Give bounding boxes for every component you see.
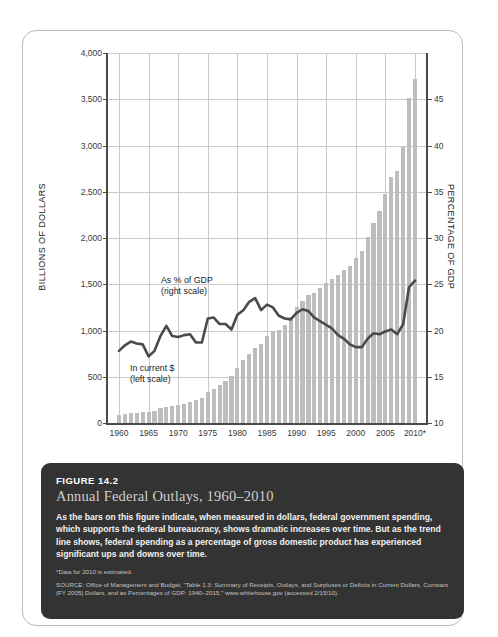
y-tick-label-right: 35 — [434, 187, 443, 197]
x-tick-label: 1980 — [228, 428, 247, 438]
y-tick-label-right: 25 — [434, 279, 443, 289]
x-tick-label: 1995 — [317, 428, 336, 438]
figure-number: FIGURE 14.2 — [56, 475, 449, 486]
y-tick-label-left: 500 — [88, 372, 102, 382]
y-axis-title-left: BILLIONS OF DOLLARS — [35, 31, 49, 443]
y-axis-title-right: PERCENTAGE OF GDP — [444, 31, 458, 443]
y-tick-label-left: 1,500 — [81, 279, 102, 289]
y-tick-label-left: 4,000 — [81, 48, 102, 58]
y-axis-title-right-label: PERCENTAGE OF GDP — [446, 184, 456, 289]
x-tick-label: 1985 — [258, 428, 277, 438]
annotation-in-current-dollars-line2: (left scale) — [130, 374, 175, 385]
figure-body-text: As the bars on this figure indicate, whe… — [56, 511, 449, 561]
y-tick-label-left: 0 — [97, 418, 102, 428]
figure-title: Annual Federal Outlays, 1960–2010 — [56, 488, 449, 505]
y-tick-label-left: 1,000 — [81, 326, 102, 336]
y-tick-label-right: 20 — [434, 326, 443, 336]
figure-footnote: *Data for 2010 is estimated. — [56, 568, 449, 575]
y-tick-label-left: 2,000 — [81, 233, 102, 243]
chart-region: BILLIONS OF DOLLARS PERCENTAGE OF GDP 05… — [23, 31, 464, 443]
annotation-percent-of-gdp-line2: (right scale) — [161, 286, 213, 297]
y-tick-label-left: 3,500 — [81, 94, 102, 104]
figure-caption-block: FIGURE 14.2 Annual Federal Outlays, 1960… — [41, 463, 464, 619]
y-tick-label-left: 3,000 — [81, 141, 102, 151]
x-tick-label: 2000 — [346, 428, 365, 438]
y-tick-label-right: 40 — [434, 141, 443, 151]
x-tick-label: 1965 — [139, 428, 158, 438]
y-tick-label-right: 15 — [434, 372, 443, 382]
x-tick-label: 1990 — [287, 428, 306, 438]
x-tick-label: 2005 — [376, 428, 395, 438]
plot-area: 05001,0001,5002,0002,5003,0003,5004,000 … — [106, 53, 428, 425]
y-tick-label-left: 2,500 — [81, 187, 102, 197]
y-tick-label-right: 45 — [434, 94, 443, 104]
x-tick-label: 1960 — [110, 428, 129, 438]
y-tick-label-right: 10 — [434, 418, 443, 428]
y-tick-label-right: 30 — [434, 233, 443, 243]
x-tick-label: 1975 — [198, 428, 217, 438]
x-tick-label: 1970 — [169, 428, 188, 438]
figure-source: SOURCE: Office of Management and Budget,… — [56, 581, 449, 598]
figure-card: BILLIONS OF DOLLARS PERCENTAGE OF GDP 05… — [22, 30, 463, 626]
annotation-percent-of-gdp-line1: As % of GDP — [161, 275, 213, 286]
annotation-in-current-dollars: In current $ (left scale) — [130, 363, 175, 385]
annotation-in-current-dollars-line1: In current $ — [130, 363, 175, 374]
y-axis-title-left-label: BILLIONS OF DOLLARS — [37, 183, 47, 291]
x-tick-label: 2010* — [404, 428, 426, 438]
annotation-percent-of-gdp: As % of GDP (right scale) — [161, 275, 213, 297]
